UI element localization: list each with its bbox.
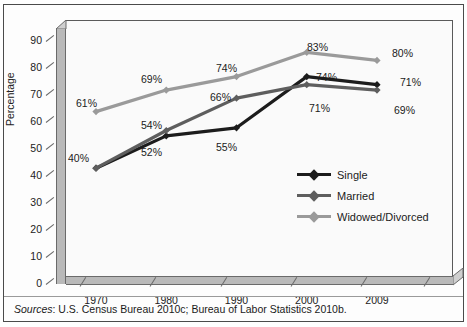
source-note: Sources: U.S. Census Bureau 2010c; Burea… bbox=[14, 303, 347, 315]
legend-item-single[interactable]: Single bbox=[297, 164, 447, 185]
cropped-header-strip bbox=[0, 0, 467, 3]
data-point-marker bbox=[373, 86, 380, 93]
data-value-label: 52% bbox=[141, 147, 162, 158]
data-value-label: 74% bbox=[216, 63, 237, 74]
legend-label: Widowed/Divorced bbox=[337, 211, 429, 223]
legend-swatch-icon bbox=[297, 212, 331, 222]
data-value-label: 80% bbox=[392, 48, 413, 59]
legend-item-married[interactable]: Married bbox=[297, 185, 447, 206]
data-point-marker bbox=[163, 86, 170, 93]
data-point-marker bbox=[92, 108, 99, 115]
data-value-label: 55% bbox=[216, 142, 237, 153]
data-value-label: 69% bbox=[394, 105, 415, 116]
figure-page: Percentage 0102030405060708090 197019801… bbox=[0, 0, 467, 327]
data-value-label: 83% bbox=[307, 42, 328, 53]
data-value-label: 74% bbox=[316, 72, 337, 83]
data-value-label: 54% bbox=[141, 120, 162, 131]
chart-legend: SingleMarriedWidowed/Divorced bbox=[297, 164, 447, 227]
source-label: Sources bbox=[14, 303, 53, 315]
data-value-label: 40% bbox=[68, 153, 89, 164]
data-value-label: 66% bbox=[210, 92, 231, 103]
legend-swatch-icon bbox=[297, 170, 331, 180]
source-divider bbox=[4, 296, 463, 297]
data-value-label: 69% bbox=[141, 74, 162, 85]
data-value-label: 61% bbox=[76, 98, 97, 109]
legend-swatch-icon bbox=[297, 191, 331, 201]
data-value-label: 71% bbox=[309, 103, 330, 114]
series-line bbox=[96, 77, 377, 169]
line-chart: Percentage 0102030405060708090 197019801… bbox=[10, 6, 450, 291]
legend-marker-icon bbox=[308, 211, 319, 222]
legend-label: Married bbox=[337, 190, 374, 202]
legend-marker-icon bbox=[308, 169, 319, 180]
legend-label: Single bbox=[337, 169, 368, 181]
data-value-label: 71% bbox=[400, 77, 421, 88]
data-point-marker bbox=[303, 81, 310, 88]
legend-marker-icon bbox=[308, 190, 319, 201]
x-axis-base-cap bbox=[453, 268, 464, 286]
data-point-marker bbox=[373, 57, 380, 64]
legend-item-widowed-divorced[interactable]: Widowed/Divorced bbox=[297, 206, 447, 227]
source-citation: : U.S. Census Bureau 2010c; Bureau of La… bbox=[53, 303, 347, 315]
